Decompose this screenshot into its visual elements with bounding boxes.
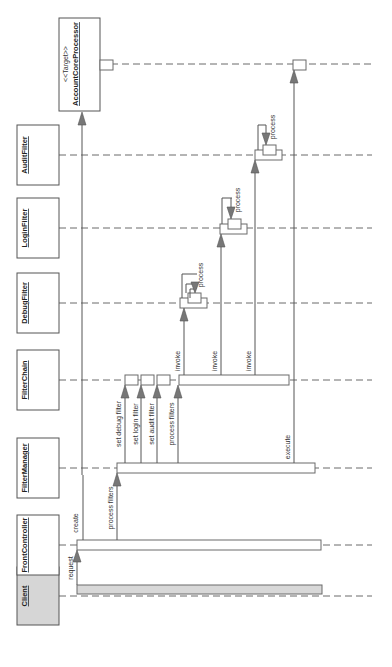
message-target-link: [78, 112, 86, 475]
participant-filtermanager[interactable]: FilterManager: [17, 438, 59, 498]
activation-client: [77, 585, 322, 594]
arrowhead-icon: [78, 112, 86, 125]
arrowhead-icon: [121, 385, 129, 398]
message-process-login: process: [222, 187, 242, 224]
message-request: request: [67, 550, 81, 585]
message-set-login-filter: set login filter: [132, 385, 145, 463]
message-process-filters-1: process filters: [107, 473, 121, 540]
message-label: process: [197, 262, 205, 287]
participant-stereotype: <<Target>>: [62, 46, 70, 82]
participant-label: FrontController: [20, 517, 29, 572]
message-label: process filters: [107, 486, 115, 530]
participant-frontcontroller[interactable]: FrontController: [17, 515, 59, 575]
participant-auditfilter[interactable]: AuditFilter: [17, 125, 59, 185]
participant-label: FilterChain: [20, 360, 29, 400]
participant-debugfilter[interactable]: DebugFilter: [17, 273, 59, 333]
arrowhead-icon: [180, 308, 188, 321]
sequence-diagram: Client FrontController FilterManager Fil…: [0, 0, 392, 667]
participant-label: AccountCoreProcessor: [71, 22, 80, 106]
message-set-debug-filter: set debug filter: [115, 385, 129, 463]
arrowhead-icon: [251, 160, 259, 173]
lifelines: [59, 64, 372, 596]
message-invoke-audit: invoke: [245, 160, 259, 375]
participant-filterchain[interactable]: FilterChain: [17, 350, 59, 410]
activation-target: [293, 60, 306, 70]
activation-filterchain-set-audit: [157, 375, 170, 385]
message-process-filters-2: process filters: [168, 385, 182, 463]
participant-target[interactable]: <<Target>> AccountCoreProcessor: [59, 18, 100, 111]
participant-label: DebugFilter: [20, 282, 29, 324]
message-invoke-debug: invoke: [174, 308, 188, 375]
message-set-audit-filter: set audit filter: [148, 385, 161, 463]
arrowhead-icon: [137, 385, 145, 398]
activation-filtermanager: [117, 463, 315, 473]
message-label: execute: [284, 435, 291, 460]
activation-auditfilter-process: [263, 145, 276, 155]
activation-loginfilter-process: [228, 219, 241, 229]
activation-filterchain-set-debug: [125, 375, 138, 385]
message-label: create: [72, 513, 79, 533]
participant-client[interactable]: Client: [17, 567, 59, 625]
activation-filterchain-process: [179, 375, 289, 385]
arrowhead-icon: [113, 473, 121, 486]
arrowhead-icon: [290, 70, 298, 83]
arrowhead-icon: [153, 385, 161, 398]
activation-target-header: [100, 60, 113, 70]
participant-label: LoginFilter: [20, 209, 29, 248]
message-label: process: [269, 114, 277, 139]
participant-label: FilterManager: [20, 443, 29, 492]
message-execute: execute: [284, 70, 298, 463]
participant-label: Client: [20, 585, 29, 606]
participant-loginfilter[interactable]: LoginFilter: [17, 198, 59, 258]
message-label: process filters: [168, 402, 176, 446]
message-create: create: [72, 475, 83, 540]
activation-frontcontroller: [77, 540, 321, 550]
participant-label: AuditFilter: [20, 136, 29, 174]
message-label: set login filter: [132, 403, 140, 445]
message-label: set audit filter: [148, 403, 155, 445]
message-label: request: [67, 556, 75, 579]
activation-filterchain-set-login: [141, 375, 154, 385]
arrowhead-icon: [174, 385, 182, 398]
message-label: invoke: [211, 351, 218, 371]
message-label: set debug filter: [115, 400, 123, 447]
message-label: invoke: [245, 351, 252, 371]
message-invoke-login: invoke: [211, 234, 225, 375]
message-label: process: [234, 187, 242, 212]
message-label: invoke: [174, 351, 181, 371]
arrowhead-icon: [73, 550, 81, 562]
arrowhead-icon: [217, 234, 225, 247]
